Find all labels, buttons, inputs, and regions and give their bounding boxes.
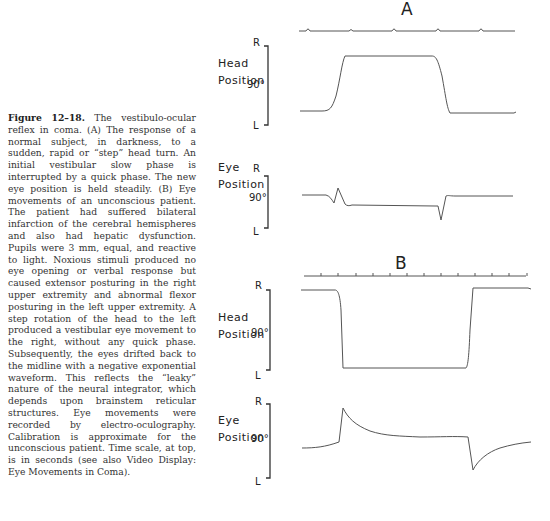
scale-brackets (264, 46, 270, 478)
panel-a-head-bracket (264, 46, 268, 125)
panel-b-head-trace (301, 288, 531, 368)
panel-b-time-scale (304, 273, 527, 276)
panel-a-eye-bracket (264, 176, 268, 228)
traces-canvas (0, 0, 550, 521)
panel-a-time-scale (299, 29, 515, 31)
panel-b-head-bracket (266, 290, 270, 370)
panel-a-eye-trace (302, 188, 513, 220)
panel-b-eye-bracket (266, 404, 270, 478)
traces (299, 29, 531, 470)
panel-a-head-trace (300, 56, 516, 113)
panel-b-eye-trace (302, 408, 531, 470)
